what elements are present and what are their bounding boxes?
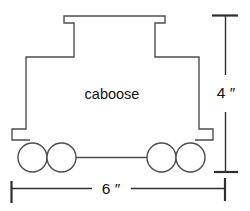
width-label: 6 ″: [102, 180, 121, 197]
wheel-1: [18, 143, 47, 172]
width-dimension: 6 ″: [12, 178, 226, 203]
wheel-3: [147, 143, 176, 172]
caboose-body-outline: [12, 16, 213, 140]
wheel-2: [47, 143, 76, 172]
height-label: 4 ″: [217, 84, 236, 101]
caboose-label: caboose: [85, 86, 140, 102]
caboose-diagram: 4 ″ 6 ″ caboose: [0, 0, 250, 211]
wheel-4: [176, 143, 205, 172]
height-dimension: 4 ″: [212, 16, 238, 173]
caboose-figure: 4 ″ 6 ″ caboose: [0, 0, 250, 211]
